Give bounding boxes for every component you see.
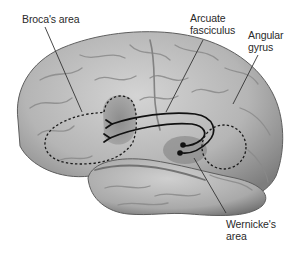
arcuate-fasciculus-label: Arcuate fasciculus xyxy=(190,12,235,36)
broca-area-label: Broca's area xyxy=(22,13,79,25)
angular-gyrus-label: Angular gyrus xyxy=(248,29,284,53)
wernicke-terminal-dot-1 xyxy=(180,142,186,148)
wernicke-terminal-dot-2 xyxy=(177,150,183,156)
wernicke-area-label: Wernicke's area xyxy=(226,218,276,242)
brain-language-areas-diagram: Broca's area Arcuate fasciculus Angular … xyxy=(0,0,294,259)
